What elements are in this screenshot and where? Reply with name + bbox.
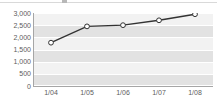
y-axis-tick-label: 1,000 — [0, 58, 31, 65]
y-axis-labels: 05001,0001,5002,0002,5003,000 — [0, 0, 31, 100]
y-axis-line — [33, 13, 34, 87]
x-axis-tick-label: 1/08 — [175, 89, 215, 97]
y-axis-tick-label: 0 — [0, 83, 31, 90]
cropped-toolbar-marker — [62, 0, 67, 3]
x-axis-labels: 1/041/051/061/071/08 — [33, 89, 213, 100]
y-axis-tick-label: 3,000 — [0, 10, 31, 17]
y-axis-tick-label: 1,500 — [0, 46, 31, 53]
x-axis-tick-label: 1/04 — [31, 89, 71, 97]
x-axis-line — [33, 86, 213, 87]
x-axis-tick-label: 1/07 — [139, 89, 179, 97]
line-chart: 05001,0001,5002,0002,5003,000 1/041/051/… — [0, 0, 217, 100]
data-point-marker — [85, 24, 90, 29]
y-axis-tick-label: 500 — [0, 70, 31, 77]
y-axis-tick-label: 2,000 — [0, 34, 31, 41]
x-axis-tick-label: 1/06 — [103, 89, 143, 97]
data-point-marker — [193, 13, 198, 17]
data-point-marker — [49, 40, 54, 45]
x-axis-tick-label: 1/05 — [67, 89, 107, 97]
y-axis-tick-label: 2,500 — [0, 22, 31, 29]
data-point-marker — [121, 23, 126, 28]
data-series-line — [33, 13, 213, 86]
data-point-marker — [157, 18, 162, 23]
top-border-rule — [0, 2, 217, 3]
series-polyline — [51, 14, 195, 42]
plot-area — [33, 13, 213, 86]
